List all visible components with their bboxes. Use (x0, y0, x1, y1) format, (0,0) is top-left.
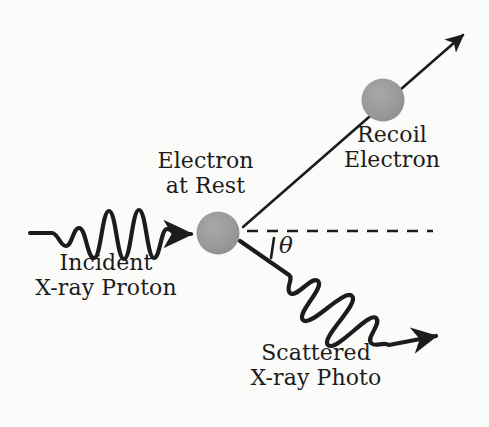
scattered-ray-wave (240, 241, 436, 346)
label-recoil-electron-line2: Electron (312, 147, 472, 172)
label-recoil-electron: Recoil Electron (312, 122, 472, 172)
compton-scattering-figure: Electron at Rest Recoil Electron Inciden… (0, 0, 489, 427)
label-incident-photon: Incident X-ray Proton (0, 250, 212, 300)
label-electron-at-rest: Electron at Rest (118, 148, 293, 198)
label-incident-photon-line2: X-ray Proton (0, 275, 212, 300)
label-electron-at-rest-line2: at Rest (118, 173, 293, 198)
label-scattered-photon-line2: X-ray Photo (218, 365, 414, 390)
label-incident-photon-line1: Incident (0, 250, 212, 275)
label-scattered-photon: Scattered X-ray Photo (218, 340, 414, 390)
angle-tick-icon (271, 238, 274, 258)
label-scattering-angle: θ (279, 232, 293, 258)
label-recoil-electron-line1: Recoil (312, 122, 472, 147)
label-scattered-photon-line1: Scattered (218, 340, 414, 365)
target-electron-circle (197, 212, 240, 255)
label-electron-at-rest-line1: Electron (118, 148, 293, 173)
recoil-electron-circle (362, 79, 405, 122)
